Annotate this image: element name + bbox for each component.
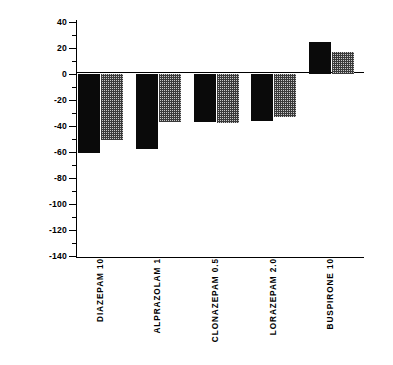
- y-tick-label: -140: [49, 251, 67, 261]
- bar: [309, 42, 331, 75]
- y-tick-mark: [69, 178, 77, 179]
- x-axis-labels: DIAZEPAM 10ALPRAZOLAM 1CLONAZEPAM 0.5LOR…: [76, 258, 364, 365]
- bar: [78, 74, 100, 153]
- y-tick-mark: [69, 256, 77, 257]
- y-minor-tick: [72, 165, 77, 166]
- x-axis-label: ALPRAZOLAM 1: [151, 258, 165, 362]
- x-axis-label: BUSPIRONE 10: [324, 258, 338, 362]
- y-tick-label: 20: [57, 43, 67, 53]
- bar-group: [309, 20, 354, 258]
- plot-area: 40200-20-40-60-80-100-120-140: [76, 20, 364, 258]
- bar-group: [78, 20, 123, 258]
- y-tick-mark: [69, 152, 77, 153]
- y-tick-label: -100: [49, 199, 67, 209]
- y-tick-mark: [69, 74, 77, 75]
- y-tick-label: 40: [57, 17, 67, 27]
- y-tick-label: -20: [54, 95, 67, 105]
- bar: [217, 74, 239, 123]
- x-axis-label: DIAZEPAM 10: [94, 258, 108, 362]
- bar: [136, 74, 158, 149]
- y-tick-mark: [69, 48, 77, 49]
- bar: [274, 74, 296, 117]
- y-minor-tick: [72, 139, 77, 140]
- y-minor-tick: [72, 35, 77, 36]
- y-minor-tick: [72, 243, 77, 244]
- bar: [194, 74, 216, 122]
- y-tick-label: 0: [62, 69, 67, 79]
- y-minor-tick: [72, 113, 77, 114]
- y-minor-tick: [72, 61, 77, 62]
- bar: [101, 74, 123, 140]
- y-minor-tick: [72, 87, 77, 88]
- y-tick-mark: [69, 100, 77, 101]
- bar-group: [194, 20, 239, 258]
- y-tick-label: -80: [54, 173, 67, 183]
- y-tick-mark: [69, 22, 77, 23]
- y-tick-mark: [69, 204, 77, 205]
- y-tick-label: -60: [54, 147, 67, 157]
- x-axis-label: CLONAZEPAM 0.5: [209, 258, 223, 362]
- bar: [332, 52, 354, 74]
- bar: [251, 74, 273, 121]
- bar-chart: PERCENT CHANGE FROM BASELINE 40200-20-40…: [0, 0, 393, 365]
- y-minor-tick: [72, 191, 77, 192]
- y-minor-tick: [72, 217, 77, 218]
- x-axis-label: LORAZEPAM 2.0: [267, 258, 281, 362]
- bar-group: [136, 20, 181, 258]
- bar: [159, 74, 181, 122]
- y-tick-label: -120: [49, 225, 67, 235]
- y-tick-label: -40: [54, 121, 67, 131]
- y-tick-mark: [69, 126, 77, 127]
- y-tick-mark: [69, 230, 77, 231]
- bar-group: [251, 20, 296, 258]
